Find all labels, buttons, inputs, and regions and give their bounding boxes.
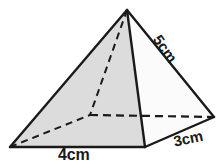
front-left-lateral-face <box>10 10 145 147</box>
pyramid-diagram-canvas: 5cm 3cm 4cm <box>0 0 224 168</box>
dimension-label-base-width: 4cm <box>58 147 90 163</box>
